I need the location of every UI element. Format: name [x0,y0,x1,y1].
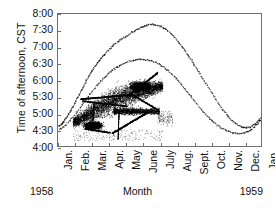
x-tick-mark [195,143,196,146]
x-tick-mark [109,143,110,146]
year-end-label: 1959 [240,185,263,197]
x-tick-mark [261,143,262,146]
x-tick-label: Apr. [114,150,125,184]
x-tick-label: Jan. [268,150,276,184]
chart-figure: Time of afternoon, CST 8:007:307:006:306… [0,0,275,211]
x-tick-label: Dec. [250,150,261,184]
x-tick-mark [92,143,93,146]
x-axis-tick-labels: Jan.Feb.Mar.Apr.MayJuneJulyAug.Sept.Oct.… [0,150,275,184]
x-tick-label: Oct. [216,150,227,184]
figure-footer: 1958 Month 1959 [0,185,275,201]
y-tick-mark [58,81,61,82]
x-tick-label: May [131,150,142,184]
scatter-points-layer [58,14,261,146]
y-tick-mark [58,115,61,116]
x-tick-label: Aug. [182,150,193,184]
y-tick-label: 5:00 [7,109,53,118]
y-tick-mark [58,14,61,15]
x-tick-mark [246,143,247,146]
y-tick-label: 5:30 [7,92,53,101]
x-tick-label: Nov. [233,150,244,184]
x-tick-mark [212,143,213,146]
x-tick-label: June [148,150,159,184]
y-tick-label: 7:00 [7,42,53,51]
y-tick-mark [58,98,61,99]
y-tick-mark [58,131,61,132]
scatter-svg [58,14,261,146]
y-tick-mark [58,31,61,32]
x-tick-label: July [165,150,176,184]
y-tick-mark [58,64,61,65]
x-tick-mark [178,143,179,146]
x-tick-mark [58,143,59,146]
x-tick-mark [75,143,76,146]
y-tick-mark [58,148,61,149]
x-tick-label: Feb. [80,150,91,184]
y-tick-mark [58,48,61,49]
x-tick-mark [229,143,230,146]
x-tick-label: Sept. [199,150,210,184]
y-tick-label: 7:30 [7,25,53,34]
x-tick-mark [126,143,127,146]
x-tick-mark [143,143,144,146]
y-tick-label: 8:00 [7,9,53,18]
y-tick-label: 6:30 [7,59,53,68]
y-tick-label: 6:00 [7,76,53,85]
x-tick-label: Mar. [97,150,108,184]
x-tick-label: Jan. [63,150,74,184]
x-axis-title: Month [0,185,275,197]
x-tick-mark [161,143,162,146]
y-tick-label: 4:30 [7,126,53,135]
plot-area [57,13,262,147]
